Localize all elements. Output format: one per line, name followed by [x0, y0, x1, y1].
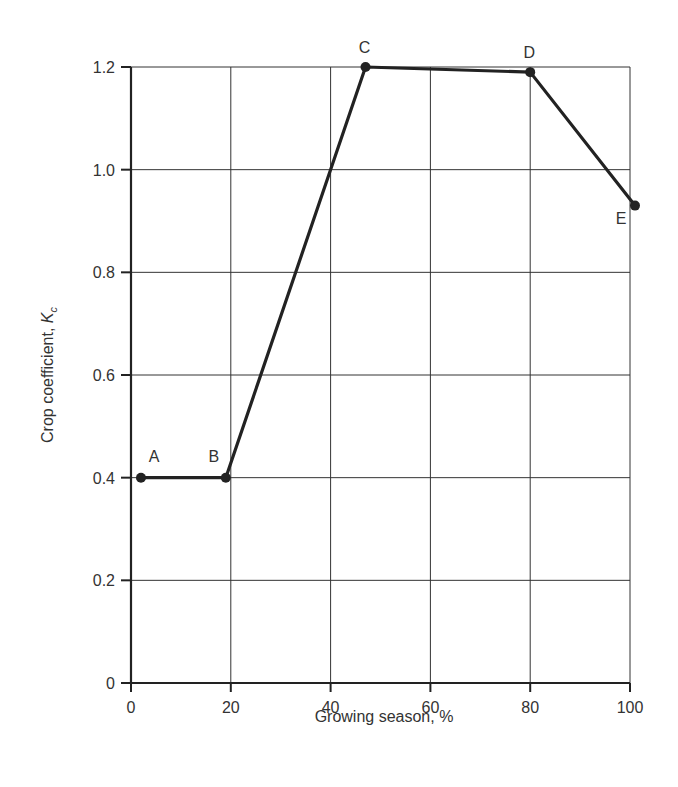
- point-label-a: A: [149, 448, 160, 465]
- y-tick-label: 0.2: [93, 572, 115, 589]
- x-axis-title: Growing season, %: [315, 708, 454, 725]
- y-tick-label: 0.4: [93, 470, 115, 487]
- y-tick-label: 0: [106, 675, 115, 692]
- x-tick-label: 80: [521, 699, 539, 716]
- grid-lines: [131, 67, 630, 683]
- y-axis-title-subscript: c: [47, 307, 59, 313]
- data-point-a: [136, 473, 146, 483]
- data-point-b: [221, 473, 231, 483]
- y-tick-label: 0.6: [93, 367, 115, 384]
- x-tick-label: 100: [617, 699, 644, 716]
- data-point-e: [630, 201, 640, 211]
- point-label-c: C: [359, 39, 371, 56]
- data-points: ABCDE: [136, 39, 640, 483]
- x-tick-label: 0: [127, 699, 136, 716]
- data-point-d: [525, 67, 535, 77]
- point-label-b: B: [208, 448, 219, 465]
- y-tick-label: 1.0: [93, 162, 115, 179]
- chart-canvas: 020406080100 00.20.40.60.81.01.2 ABCDE G…: [0, 0, 678, 787]
- y-axis-title: Crop coefficient, Kc: [39, 307, 59, 443]
- y-axis-ticks: 00.20.40.60.81.01.2: [93, 59, 131, 692]
- point-label-e: E: [616, 210, 627, 227]
- x-tick-label: 20: [222, 699, 240, 716]
- point-label-d: D: [523, 44, 535, 61]
- data-point-c: [361, 62, 371, 72]
- y-tick-label: 0.8: [93, 264, 115, 281]
- y-tick-label: 1.2: [93, 59, 115, 76]
- y-axis-title-main: Crop coefficient,: [39, 323, 56, 443]
